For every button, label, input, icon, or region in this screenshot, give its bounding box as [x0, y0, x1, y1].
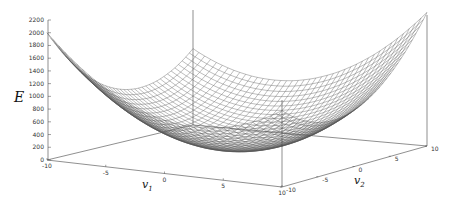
z-tick-label: 1600 [29, 54, 44, 61]
y-tick-label: 10 [431, 145, 439, 152]
z-tick-label: 1000 [29, 92, 44, 99]
y-tick-label: -10 [286, 186, 296, 193]
x-tick-label: -5 [103, 169, 109, 176]
y-axis-label: v2 [354, 174, 365, 189]
x-axis-label: v1 [142, 178, 153, 193]
z-tick-label: 2200 [29, 16, 44, 23]
y-tick-label: -5 [322, 176, 328, 183]
x-tick-label: 5 [221, 182, 225, 189]
z-tick-label: 800 [33, 105, 45, 112]
surface-plot: 2200200018001600140012001000800600400200… [0, 0, 452, 203]
z-tick-label: 1200 [29, 80, 44, 87]
x-tick-label: 0 [163, 176, 167, 183]
z-axis: 2200200018001600140012001000800600400200… [29, 16, 51, 163]
x-tick-label: -10 [42, 162, 52, 169]
z-axis-label: E [13, 89, 24, 105]
y-tick-label: 5 [395, 155, 399, 162]
z-tick-label: 600 [33, 118, 45, 125]
z-tick-label: 200 [33, 143, 45, 150]
y-tick-label: 0 [359, 166, 363, 173]
z-tick-label: 1400 [29, 67, 44, 74]
z-tick-label: 400 [33, 131, 45, 138]
surface-mesh [47, 12, 427, 151]
plot-box-front [47, 15, 427, 187]
z-tick-label: 1800 [29, 41, 44, 48]
x-tick-label: 10 [278, 189, 286, 196]
z-tick-label: 2000 [29, 29, 44, 36]
